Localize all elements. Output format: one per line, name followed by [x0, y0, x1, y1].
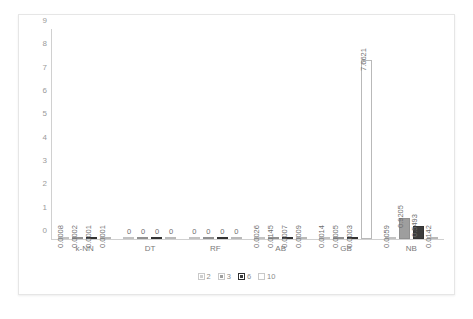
legend-item[interactable]: 2	[198, 273, 211, 281]
bar-column[interactable]: 0.0003	[347, 29, 358, 239]
bar-column[interactable]: 0.0001	[100, 29, 111, 239]
bar-value-label: 0.9205	[397, 205, 405, 228]
bar-column[interactable]: 0	[123, 29, 134, 239]
bar-column[interactable]: 0.0026	[254, 29, 265, 239]
bar-column[interactable]: 0	[151, 29, 162, 239]
bar-column[interactable]: 0.0007	[282, 29, 293, 239]
legend-swatch-icon	[258, 273, 265, 280]
plot-area: 0123456789 0.00080.00020.00010.0001k-NN0…	[51, 29, 444, 240]
bar-group: 0.00140.00050.00037.6621GB	[313, 29, 378, 239]
legend-label: 6	[247, 273, 251, 281]
category-label: NB	[379, 245, 444, 253]
bar[interactable]: 0.0001	[100, 237, 111, 239]
bar[interactable]: 0.0003	[347, 237, 358, 239]
bar-column[interactable]: 0.0001	[86, 29, 97, 239]
bar-column[interactable]: 0	[137, 29, 148, 239]
category-label: k-NN	[52, 245, 117, 253]
bar-groups: 0.00080.00020.00010.0001k-NN0000DT0000RF…	[52, 29, 444, 239]
bar-column[interactable]: 0.0009	[296, 29, 307, 239]
bar-value-label: 0	[141, 228, 145, 236]
bar[interactable]: 0	[189, 237, 200, 239]
bar-value-label: 0	[192, 228, 196, 236]
bar-column[interactable]: 0.0014	[319, 29, 330, 239]
bar[interactable]: 0	[151, 237, 162, 239]
bar-value-label: 0	[169, 228, 173, 236]
bar-column[interactable]: 0	[165, 29, 176, 239]
bar-group: 0000DT	[117, 29, 182, 239]
bar[interactable]: 0.9205	[399, 218, 410, 239]
legend-item[interactable]: 6	[238, 273, 251, 281]
bar-value-label: 0	[127, 228, 131, 236]
bar-value-label: 0	[206, 228, 210, 236]
bar-column[interactable]: 0.0142	[427, 29, 438, 239]
category-label: GB	[313, 245, 378, 253]
legend-swatch-icon	[198, 273, 205, 280]
bar[interactable]: 0	[137, 237, 148, 239]
y-axis-tick: 4	[43, 134, 47, 142]
y-axis-tick: 9	[43, 17, 47, 25]
bar-group: 0.00080.00020.00010.0001k-NN	[52, 29, 117, 239]
category-label: AB	[248, 245, 313, 253]
legend-item[interactable]: 10	[258, 273, 275, 281]
bar-value-label: 7.6621	[359, 48, 367, 71]
chart-legend: 23610	[19, 273, 454, 281]
legend-label: 3	[227, 273, 231, 281]
bar-set: 0.00140.00050.00037.6621	[313, 29, 378, 239]
legend-swatch-icon	[218, 273, 225, 280]
bar[interactable]: 0.0059	[385, 237, 396, 239]
category-label: RF	[183, 245, 248, 253]
bar-column[interactable]: 0.0059	[385, 29, 396, 239]
chart-card: 0123456789 0.00080.00020.00010.0001k-NN0…	[18, 14, 455, 295]
bar[interactable]: 0	[231, 237, 242, 239]
bar-group: 0000RF	[183, 29, 248, 239]
bar[interactable]: 0.0142	[427, 237, 438, 239]
bar-value-label: 0.5493	[411, 214, 419, 237]
bar[interactable]: 0.0145	[268, 237, 279, 239]
bar-set: 0.00590.92050.54930.0142	[379, 29, 444, 239]
bar[interactable]: 0	[217, 237, 228, 239]
bar-set: 0.00260.01450.00070.0009	[248, 29, 313, 239]
bar[interactable]: 0	[123, 237, 134, 239]
bar-set: 0000	[117, 29, 182, 239]
bar-column[interactable]: 0.0005	[333, 29, 344, 239]
category-label: DT	[117, 245, 182, 253]
bar-column[interactable]: 0	[203, 29, 214, 239]
legend-label: 10	[267, 273, 275, 281]
bar-set: 0000	[183, 29, 248, 239]
bar-column[interactable]: 7.6621	[361, 29, 372, 239]
y-axis-tick: 3	[43, 157, 47, 165]
y-axis-tick: 2	[43, 180, 47, 188]
bar[interactable]: 0	[203, 237, 214, 239]
bar-column[interactable]: 0	[217, 29, 228, 239]
legend-swatch-icon	[238, 273, 245, 280]
y-axis-tick: 6	[43, 87, 47, 95]
bar[interactable]: 0.0026	[254, 237, 265, 239]
bar-column[interactable]: 0.0008	[58, 29, 69, 239]
bar[interactable]: 0.0007	[282, 237, 293, 239]
bar[interactable]: 0	[165, 237, 176, 239]
bar[interactable]: 0.0014	[319, 237, 330, 239]
bar[interactable]: 0.0008	[58, 237, 69, 239]
bar-set: 0.00080.00020.00010.0001	[52, 29, 117, 239]
bar[interactable]: 0.0005	[333, 237, 344, 239]
bar-column[interactable]: 0.0002	[72, 29, 83, 239]
y-axis-tick: 8	[43, 40, 47, 48]
bar[interactable]: 0.0002	[72, 237, 83, 239]
y-axis-tick: 5	[43, 110, 47, 118]
bar[interactable]: 7.6621	[361, 60, 372, 239]
bar-column[interactable]: 0	[189, 29, 200, 239]
bar-value-label: 0	[220, 228, 224, 236]
bar[interactable]: 0.0009	[296, 237, 307, 239]
bar-value-label: 0	[155, 228, 159, 236]
bar-group: 0.00260.01450.00070.0009AB	[248, 29, 313, 239]
bar-column[interactable]: 0.5493	[413, 29, 424, 239]
bar[interactable]: 0.5493	[413, 226, 424, 239]
bar-column[interactable]: 0.9205	[399, 29, 410, 239]
legend-label: 2	[207, 273, 211, 281]
y-axis-tick: 1	[43, 204, 47, 212]
legend-item[interactable]: 3	[218, 273, 231, 281]
bar-column[interactable]: 0	[231, 29, 242, 239]
bar-column[interactable]: 0.0145	[268, 29, 279, 239]
bar[interactable]: 0.0001	[86, 237, 97, 239]
y-axis-tick: 7	[43, 64, 47, 72]
